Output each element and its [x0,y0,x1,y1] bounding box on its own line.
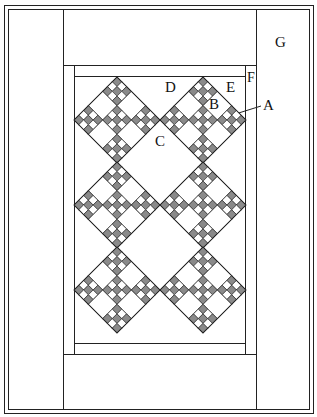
label-g: G [275,35,286,50]
label-e: E [226,80,235,95]
quilt-diagram [0,0,317,417]
label-b: B [209,97,219,112]
label-f: F [247,71,255,85]
label-d: D [165,80,176,95]
nine-patch-block [160,247,246,333]
inner-frame [9,10,310,410]
outer-frame [5,6,314,414]
nine-patch-block [160,162,246,248]
label-c: C [155,134,165,149]
quilt-blocks [74,77,246,333]
nine-patch-block [74,247,160,333]
nine-patch-block [74,77,160,163]
label-a: A [263,98,274,113]
nine-patch-block [74,162,160,248]
